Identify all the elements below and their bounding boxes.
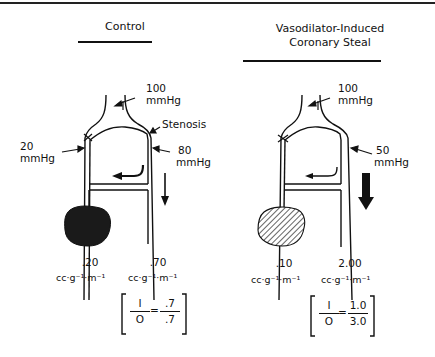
control-distal-pressure-value: 80 [176,144,211,156]
control-distal-flow-arrow [161,173,169,206]
control-title-underline [78,41,152,43]
control-normal-flow-value: .70 [138,256,178,268]
vasodilator-ratio-numerator: 1.0 [346,299,370,311]
control-ratio-bar-left [130,311,150,312]
vasodilator-distal-pressure-unit: mmHg [374,156,409,168]
vasodilator-title-underline [243,60,381,62]
control-distal-pressure-label: 80 mmHg [176,144,211,168]
vasodilator-vessel-diagram [279,95,352,300]
control-title: Control [80,20,170,34]
control-ratio-denominator: .7 [158,313,182,325]
vasodilator-ratio-bar-right [348,313,368,314]
control-stenosis-label: Stenosis [162,118,206,130]
control-title-line: Control [105,20,145,33]
control-aortic-pressure-value: 100 [146,82,181,94]
control-collateral-pressure-value: 20 [20,140,55,152]
control-collateral-pressure-unit: mmHg [20,152,55,164]
control-ischemic-region [65,206,111,246]
vasodilator-normal-flow-value: 2.00 [330,257,370,269]
vasodilator-title-line-2: Coronary Steal [240,36,420,50]
control-aortic-pressure-label: 100 mmHg [146,82,181,106]
vasodilator-aortic-pressure-value: 100 [338,82,373,94]
vasodilator-distal-flow-arrow [358,173,374,210]
control-ratio-i: I [128,297,152,309]
vasodilator-aortic-pressure-label: 100 mmHg [338,82,373,106]
vasodilator-ratio-denominator: 3.0 [346,315,370,327]
control-distal-pressure-unit: mmHg [176,156,211,168]
control-normal-flow-unit: cc·g⁻¹·m⁻¹ [128,272,177,283]
vasodilator-collateral-flow-arrow [305,167,337,179]
vasodilator-collateral-flow-unit: cc·g⁻¹·m⁻¹ [251,274,300,285]
vasodilator-title-line-1: Vasodilator-Induced [240,22,420,36]
vasodilator-pressure-ticks [278,98,372,154]
vasodilator-distal-pressure-label: 50 mmHg [374,144,409,168]
control-collateral-flow-arrow [112,165,143,180]
control-collateral-flow-value: .20 [70,256,110,268]
control-aortic-pressure-unit: mmHg [146,94,181,106]
control-vessel-diagram [84,95,154,300]
control-ratio-o: O [128,313,152,325]
vasodilator-normal-flow-unit: cc·g⁻¹·m⁻¹ [321,274,370,285]
vasodilator-distal-pressure-value: 50 [374,144,409,156]
vasodilator-title: Vasodilator-Induced Coronary Steal [240,22,420,50]
control-collateral-flow-unit: cc·g⁻¹·m⁻¹ [56,272,105,283]
vasodilator-aortic-pressure-unit: mmHg [338,94,373,106]
control-ratio-bar-right [160,311,180,312]
vasodilator-inflow-outflow-ratio: I O = 1.0 3.0 [317,299,373,333]
vasodilator-ischemic-region [258,207,305,246]
vasodilator-collateral-flow-value: .10 [264,257,304,269]
control-ratio-numerator: .7 [158,297,182,309]
control-collateral-pressure-label: 20 mmHg [20,140,55,164]
vasodilator-ratio-bar-left [319,313,339,314]
control-pressure-ticks [62,98,170,152]
control-inflow-outflow-ratio: I O = .7 .7 [128,297,184,331]
